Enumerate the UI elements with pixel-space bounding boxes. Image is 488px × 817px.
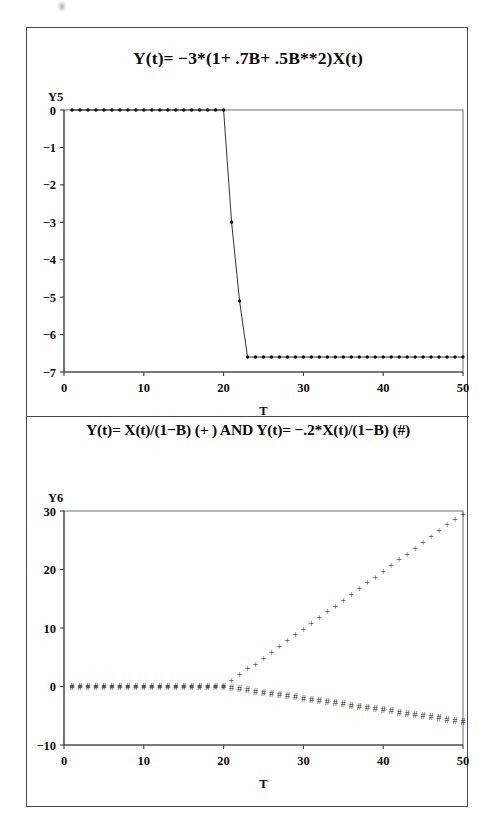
x-tick-label: 30 bbox=[297, 381, 310, 395]
data-point: + bbox=[340, 595, 346, 606]
data-point bbox=[118, 108, 121, 111]
data-point: # bbox=[437, 712, 442, 723]
y-tick-label: 10 bbox=[44, 622, 57, 636]
data-point: + bbox=[261, 653, 267, 664]
plot-area-top: 0−1−2−3−4−5−6−701020304050Y5T bbox=[27, 28, 469, 416]
data-point bbox=[302, 355, 305, 358]
data-point: # bbox=[381, 704, 386, 715]
data-point: # bbox=[453, 715, 458, 726]
data-point: # bbox=[229, 682, 234, 693]
plot-area-bottom: 3020100−1001020304050Y6T++++++++++++++++… bbox=[27, 417, 469, 808]
data-point: # bbox=[325, 696, 330, 707]
y-tick-label: −5 bbox=[43, 291, 56, 305]
chart-panel-top: Y(t)= −3*(1+ .7B+ .5B**2)X(t) 0−1−2−3−4−… bbox=[27, 28, 469, 416]
data-point bbox=[310, 355, 313, 358]
plot-frame bbox=[64, 511, 463, 745]
data-point: # bbox=[317, 695, 322, 706]
data-point: # bbox=[365, 702, 370, 713]
data-point: # bbox=[165, 681, 170, 692]
data-point: # bbox=[405, 708, 410, 719]
y-tick-label: −4 bbox=[43, 253, 57, 267]
x-tick-label: 40 bbox=[377, 381, 390, 395]
data-point bbox=[382, 355, 385, 358]
data-point: + bbox=[404, 549, 410, 560]
data-point bbox=[270, 355, 273, 358]
data-point: + bbox=[420, 537, 426, 548]
x-tick-label: 30 bbox=[297, 754, 310, 768]
figure-page: Y(t)= −3*(1+ .7B+ .5B**2)X(t) 0−1−2−3−4−… bbox=[0, 0, 488, 817]
data-point: # bbox=[421, 710, 426, 721]
data-point: + bbox=[301, 624, 307, 635]
data-point bbox=[286, 355, 289, 358]
data-point bbox=[358, 355, 361, 358]
data-point: + bbox=[285, 635, 291, 646]
data-point bbox=[142, 108, 145, 111]
data-point bbox=[70, 108, 73, 111]
data-point bbox=[238, 299, 241, 302]
data-point bbox=[246, 355, 249, 358]
data-point: + bbox=[245, 663, 251, 674]
data-point bbox=[174, 108, 177, 111]
data-point: + bbox=[348, 589, 354, 600]
data-point: # bbox=[69, 681, 74, 692]
data-point: + bbox=[325, 606, 331, 617]
data-point: # bbox=[189, 681, 194, 692]
data-point: # bbox=[413, 709, 418, 720]
data-point bbox=[374, 355, 377, 358]
data-point: # bbox=[341, 698, 346, 709]
data-point bbox=[453, 355, 456, 358]
y-tick-label: 0 bbox=[50, 680, 56, 694]
data-point: + bbox=[412, 543, 418, 554]
data-point bbox=[294, 355, 297, 358]
x-tick-label: 50 bbox=[457, 381, 469, 395]
data-point bbox=[78, 108, 81, 111]
x-tick-label: 0 bbox=[61, 381, 67, 395]
data-point: # bbox=[389, 705, 394, 716]
data-point bbox=[437, 355, 440, 358]
data-point: # bbox=[149, 681, 154, 692]
series-path-0 bbox=[72, 110, 463, 357]
data-point bbox=[366, 355, 369, 358]
data-point bbox=[326, 355, 329, 358]
data-point bbox=[166, 108, 169, 111]
data-point bbox=[198, 108, 201, 111]
data-point: + bbox=[277, 641, 283, 652]
y-tick-label: −2 bbox=[43, 178, 56, 192]
data-point: + bbox=[253, 659, 259, 670]
data-point: # bbox=[237, 683, 242, 694]
data-point: # bbox=[349, 700, 354, 711]
data-point: + bbox=[332, 601, 338, 612]
data-point: # bbox=[245, 684, 250, 695]
data-point bbox=[397, 355, 400, 358]
data-point: # bbox=[205, 681, 210, 692]
y-tick-label: −3 bbox=[43, 216, 56, 230]
data-point bbox=[150, 108, 153, 111]
data-point: + bbox=[436, 525, 442, 536]
y-tick-label: −10 bbox=[36, 739, 56, 753]
data-point: # bbox=[213, 681, 218, 692]
plot-svg-top: 0−1−2−3−4−5−6−701020304050Y5T bbox=[27, 28, 469, 416]
data-point: # bbox=[397, 707, 402, 718]
data-point bbox=[350, 355, 353, 358]
data-point: + bbox=[444, 519, 450, 530]
data-point bbox=[230, 221, 233, 224]
plot-svg-bottom: 3020100−1001020304050Y6T++++++++++++++++… bbox=[27, 417, 469, 808]
data-point bbox=[405, 355, 408, 358]
data-point: # bbox=[157, 681, 162, 692]
data-point: # bbox=[301, 693, 306, 704]
data-point: # bbox=[261, 687, 266, 698]
data-point: + bbox=[364, 577, 370, 588]
data-point: # bbox=[77, 681, 82, 692]
x-tick-label: 40 bbox=[377, 754, 390, 768]
y-axis-label: Y5 bbox=[48, 90, 63, 104]
y-tick-label: −6 bbox=[43, 328, 56, 342]
data-point: # bbox=[461, 716, 466, 727]
data-point bbox=[461, 355, 464, 358]
data-point: # bbox=[333, 697, 338, 708]
x-axis-label: T bbox=[259, 404, 268, 416]
data-point: # bbox=[133, 681, 138, 692]
data-point: + bbox=[396, 554, 402, 565]
data-point bbox=[421, 355, 424, 358]
data-point bbox=[262, 355, 265, 358]
data-point bbox=[214, 108, 217, 111]
